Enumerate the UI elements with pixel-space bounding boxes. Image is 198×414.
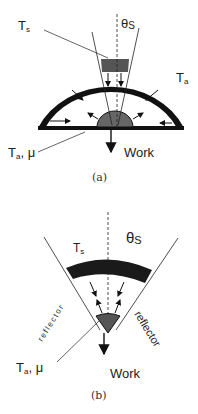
label-absorber: Ta, μ (8, 145, 35, 161)
diagram-canvas: Ts θS Ta Ta, μ Work (a) Ts θS reflector … (0, 0, 198, 414)
label-work: Work (124, 145, 155, 160)
caption-a: (a) (92, 171, 107, 184)
arrow-emit-left (88, 113, 98, 119)
sun-window (101, 59, 129, 72)
absorber (97, 111, 133, 127)
label-reflector-left: reflector (36, 302, 66, 343)
ts-leader (44, 30, 108, 58)
caption-b: (b) (91, 389, 107, 402)
arrow-in-b-left (90, 282, 96, 296)
label-absorber-b: Ta, μ (16, 360, 43, 376)
figure-b: Ts θS reflector reflector Ta, μ Work (b) (16, 212, 178, 402)
absorber-leader-b (57, 320, 100, 362)
figure-a: Ts θS Ta Ta, μ Work (a) (8, 14, 189, 184)
arrow-in-b-right (118, 282, 124, 296)
label-theta-s-b: θS (126, 229, 142, 246)
sun-arc-band (66, 259, 152, 283)
label-theta-s: θS (121, 16, 135, 31)
label-ta: Ta (176, 70, 189, 86)
label-ts: Ts (18, 18, 30, 34)
cone-line-left (92, 32, 112, 125)
absorber-leader (38, 132, 85, 152)
label-work-b: Work (110, 366, 141, 381)
arrow-out-b-right (115, 300, 120, 313)
arrow-emit-right (133, 113, 143, 119)
label-ts-b: Ts (73, 241, 84, 256)
label-reflector-right: reflector (132, 309, 163, 349)
arrow-out-b-left (97, 300, 102, 313)
